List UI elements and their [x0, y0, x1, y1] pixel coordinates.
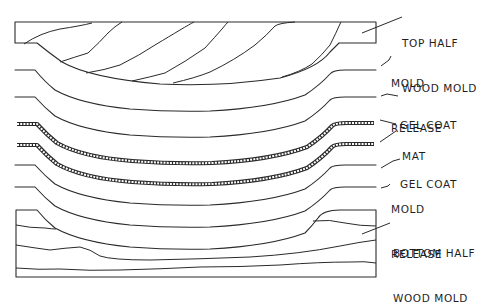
mold-release-bottom-line	[15, 187, 376, 227]
gel-coat-top-line	[15, 97, 376, 137]
label-line: WOOD MOLD	[393, 291, 475, 306]
mold-release-top-line	[15, 70, 376, 111]
label-bottom-half-wood-mold: BOTTOM HALF WOOD MOLD	[393, 216, 475, 306]
bottom-half-wood-mold	[16, 210, 376, 277]
top-half-wood-mold	[15, 22, 376, 85]
label-line: BOTTOM HALF	[393, 246, 475, 261]
label-line: MOLD	[391, 202, 442, 217]
